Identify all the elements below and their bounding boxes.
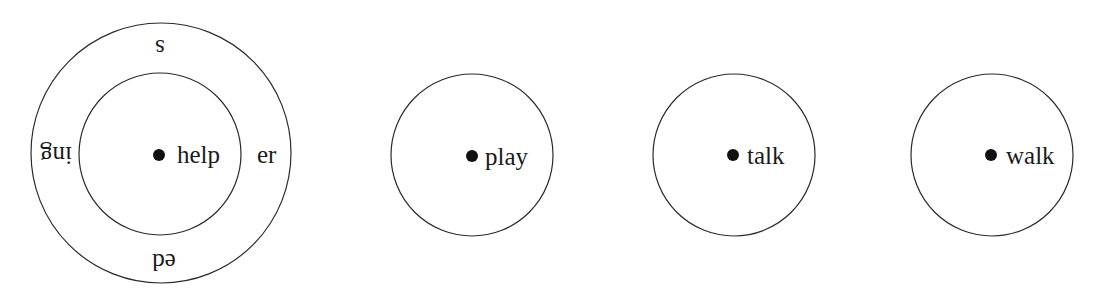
affix-right-er: er [257,141,277,168]
root-dot-icon [466,150,478,162]
word-group-talk: talk [653,74,815,236]
root-dot-icon [985,149,997,161]
affix-left-ing: ing [40,142,72,169]
root-dot-icon [727,149,739,161]
root-dot-icon [153,149,165,161]
word-family-diagram: help s er ed ing play talk walk [0,0,1103,292]
root-word-play: play [485,143,529,170]
root-word-talk: talk [747,142,785,169]
affix-top-s: s [155,35,165,62]
root-word-help: help [177,141,220,168]
word-group-help: help s er ed ing [31,23,291,283]
word-group-play: play [391,74,553,236]
affix-bottom-ed: ed [152,249,176,276]
word-group-walk: walk [911,74,1073,236]
root-word-walk: walk [1006,142,1055,169]
